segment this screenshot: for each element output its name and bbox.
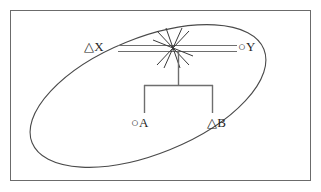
- node-label-x: △X: [84, 40, 104, 53]
- diagram-graphics: [0, 0, 321, 192]
- node-label-y: ○Y: [238, 40, 256, 53]
- diagram-canvas: △X ○Y ○A △B: [0, 0, 321, 192]
- outer-border: [11, 11, 311, 181]
- node-label-b: △B: [207, 116, 226, 129]
- node-label-a: ○A: [131, 116, 149, 129]
